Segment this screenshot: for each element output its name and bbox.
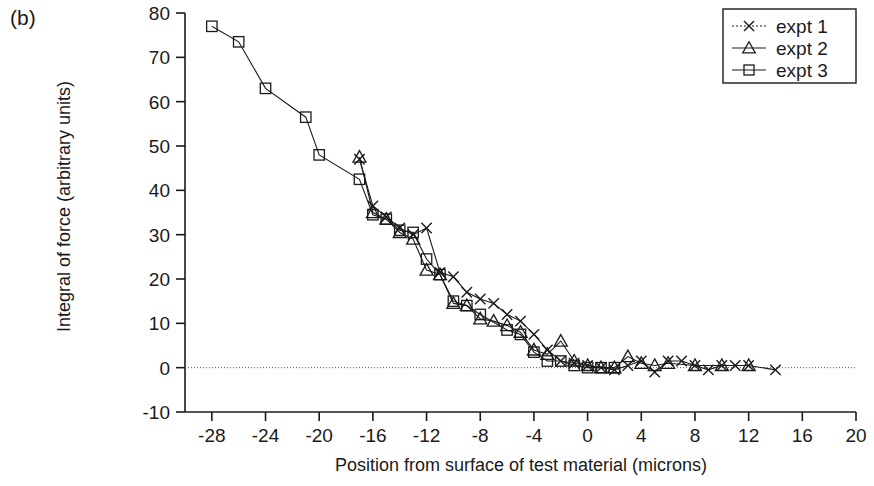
x-tick-label: 8 — [690, 425, 701, 446]
x-tick-label: -8 — [472, 425, 489, 446]
data-point-marker-x — [770, 365, 780, 375]
x-tick-label: -20 — [305, 425, 332, 446]
legend-label: expt 2 — [776, 38, 828, 59]
y-tick-label: 30 — [149, 225, 170, 246]
y-tick-label: 60 — [149, 92, 170, 113]
data-point-marker-x — [421, 223, 431, 233]
y-tick-label: 10 — [149, 313, 170, 334]
data-point-marker-x — [475, 294, 485, 304]
y-tick-label: 0 — [159, 358, 170, 379]
x-tick-label: -28 — [198, 425, 225, 446]
data-point-marker-x — [703, 365, 713, 375]
data-point-marker-x — [448, 272, 458, 282]
legend-label: expt 3 — [776, 60, 828, 81]
data-point-marker-triangle — [662, 357, 675, 369]
data-point-marker-x — [609, 365, 619, 375]
y-tick-label: 40 — [149, 180, 170, 201]
y-tick-label: 20 — [149, 269, 170, 290]
y-tick-label: 80 — [149, 3, 170, 24]
legend-label: expt 1 — [776, 16, 828, 37]
series-expt-3 — [207, 21, 620, 373]
y-tick-label: -10 — [143, 402, 170, 423]
y-tick-label: 70 — [149, 47, 170, 68]
data-point-marker-x — [488, 298, 498, 308]
chart-legend: expt 1expt 2expt 3 — [723, 9, 856, 83]
x-tick-label: -24 — [252, 425, 280, 446]
x-tick-label: 0 — [582, 425, 593, 446]
data-point-marker-x — [462, 287, 472, 297]
series-expt-1 — [354, 154, 780, 377]
x-tick-label: 16 — [792, 425, 813, 446]
x-tick-label: -12 — [413, 425, 440, 446]
x-tick-label: 20 — [845, 425, 866, 446]
chart-plot-area: -1001020304050607080-28-24-20-16-12-8-40… — [0, 0, 874, 486]
data-point-marker-triangle — [514, 326, 527, 338]
series-line — [212, 26, 615, 367]
data-point-marker-x — [569, 358, 579, 368]
series-expt-2 — [353, 151, 755, 373]
x-tick-label: 12 — [738, 425, 759, 446]
data-point-marker-x — [529, 329, 539, 339]
x-tick-label: 4 — [636, 425, 647, 446]
series-line — [359, 157, 748, 368]
y-tick-label: 50 — [149, 136, 170, 157]
series-line — [359, 159, 775, 372]
x-tick-label: -4 — [525, 425, 542, 446]
x-tick-label: -16 — [359, 425, 386, 446]
data-point-marker-x — [650, 367, 660, 377]
data-series-group — [207, 21, 781, 377]
figure-container: (b) Integral of force (arbitrary units) … — [0, 0, 874, 486]
